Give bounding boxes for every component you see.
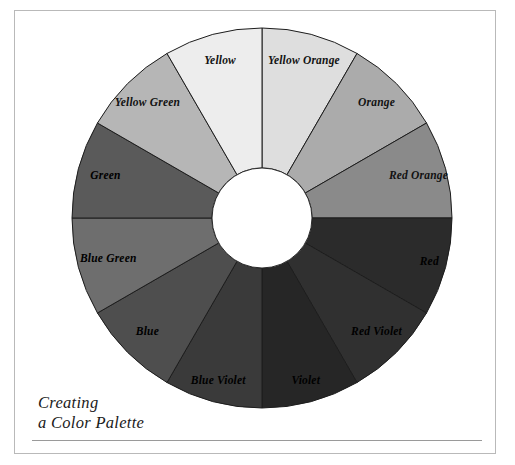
segment-label-red-violet: Red Violet [350,325,402,337]
segment-label-green: Green [90,169,120,181]
segment-label-orange: Orange [358,96,395,109]
segment-label-yellow-green: Yellow Green [115,96,180,108]
segment-label-violet: Violet [291,374,320,386]
segment-label-blue-violet: Blue Violet [190,374,247,386]
segment-label-yellow-orange: Yellow Orange [268,54,340,67]
segment-label-blue-green: Blue Green [79,252,137,264]
caption-line-1: Creating [38,393,338,413]
caption-underline-rule [32,440,482,441]
figure-caption: Creating a Color Palette [38,393,338,433]
caption-line-2: a Color Palette [38,413,338,433]
segment-label-red-orange: Red Orange [388,169,448,182]
segment-label-yellow: Yellow [204,54,236,66]
segment-label-blue: Blue [135,325,159,337]
color-wheel-figure: Yellow OrangeOrangeRed OrangeRedRed Viol… [0,0,515,465]
wheel-center-hub [212,168,312,268]
segment-label-red: Red [419,255,439,267]
